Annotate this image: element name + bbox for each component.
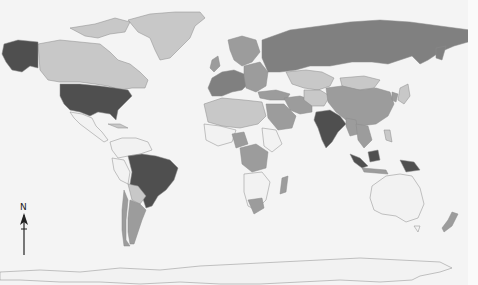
north-arrow-icon: [16, 203, 36, 259]
country-argentina: [128, 200, 146, 244]
country-korea: [392, 92, 398, 102]
country-usa: [60, 84, 132, 120]
country-western-europe: [208, 70, 248, 96]
country-east-africa: [262, 128, 282, 152]
country-greenland: [128, 12, 205, 60]
country-peru: [112, 158, 130, 184]
country-nigeria: [232, 132, 248, 148]
country-canada-islands: [70, 18, 130, 38]
country-madagascar: [280, 176, 288, 194]
country-south-africa: [248, 198, 264, 214]
country-new-zealand: [442, 212, 458, 232]
country-japan: [398, 84, 410, 104]
country-north-africa: [204, 98, 266, 128]
country-scandinavia: [228, 36, 260, 66]
country-kamchatka: [436, 46, 446, 60]
country-southeast-asia: [356, 124, 372, 148]
map-edge: [468, 0, 478, 285]
country-canada: [38, 40, 148, 90]
country-philippines: [384, 130, 392, 142]
country-kazakhstan: [286, 70, 334, 90]
country-eastern-europe: [244, 62, 268, 92]
country-indonesia-borneo: [368, 150, 380, 162]
country-indonesia-java: [362, 168, 388, 174]
country-alaska: [2, 40, 38, 72]
country-west-africa: [204, 124, 236, 146]
country-australia: [370, 174, 424, 222]
country-cuba: [108, 124, 128, 128]
country-papua-new-guinea: [400, 160, 420, 172]
country-antarctica: [0, 258, 452, 284]
world-map: [0, 0, 478, 285]
country-russia: [262, 20, 470, 72]
country-uk: [210, 56, 220, 72]
country-tasmania: [414, 226, 420, 232]
country-indonesia-sumatra: [350, 154, 368, 168]
country-central-africa: [240, 144, 268, 172]
country-mexico: [70, 112, 108, 142]
